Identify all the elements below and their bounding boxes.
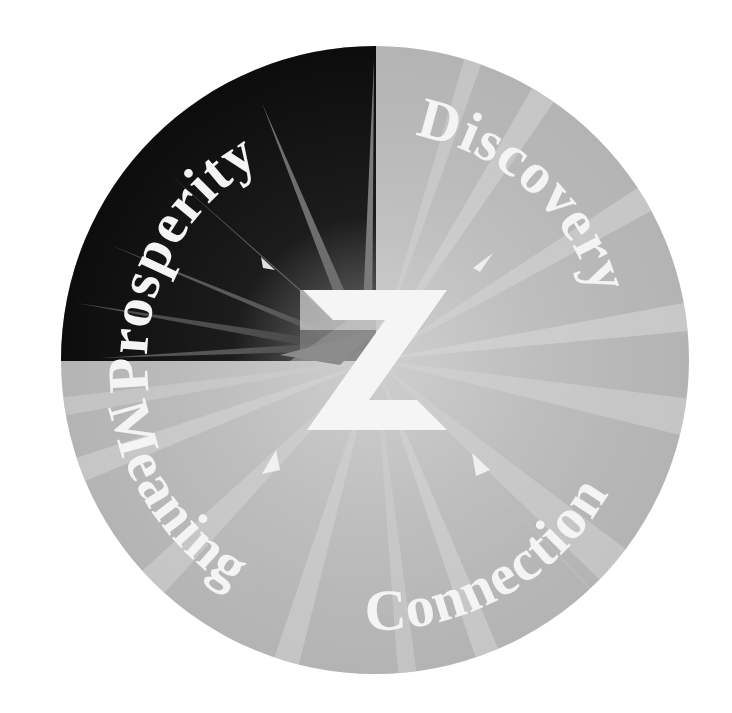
compass-diagram: Prosperity Discovery Meaning Connection bbox=[0, 0, 732, 713]
